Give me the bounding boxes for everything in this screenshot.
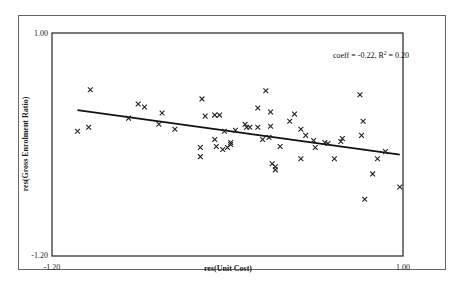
x-marker-icon bbox=[292, 112, 297, 117]
x-tick-min: -1.20 bbox=[44, 263, 61, 272]
x-marker-icon bbox=[217, 113, 222, 118]
x-marker-icon bbox=[86, 125, 91, 130]
x-marker-icon bbox=[255, 125, 260, 130]
x-marker-icon bbox=[156, 122, 161, 127]
x-marker-icon bbox=[273, 167, 278, 172]
x-marker-icon bbox=[370, 171, 375, 176]
scatter-chart: 1.00 -1.20 -1.20 1.00 res(Unit Cost) res… bbox=[0, 0, 458, 302]
y-tick-min: -1.20 bbox=[31, 251, 48, 260]
x-marker-icon bbox=[203, 114, 208, 119]
x-marker-icon bbox=[200, 96, 205, 101]
y-tick-max: 1.00 bbox=[34, 29, 48, 38]
x-marker-icon bbox=[303, 133, 308, 138]
data-points bbox=[75, 87, 402, 201]
coefficient-annotation: coeff = -0.22, R2 = 0.20 bbox=[333, 50, 409, 60]
x-marker-icon bbox=[298, 156, 303, 161]
regression-line bbox=[78, 110, 400, 155]
x-marker-icon bbox=[332, 156, 337, 161]
x-marker-icon bbox=[136, 102, 141, 107]
x-marker-icon bbox=[214, 144, 219, 149]
x-marker-icon bbox=[212, 137, 217, 142]
plot-area bbox=[52, 33, 403, 256]
x-marker-icon bbox=[313, 145, 318, 150]
x-marker-icon bbox=[278, 144, 283, 149]
x-marker-icon bbox=[247, 125, 252, 130]
x-marker-icon bbox=[362, 197, 367, 202]
x-marker-icon bbox=[375, 156, 380, 161]
x-marker-icon bbox=[359, 133, 364, 138]
x-marker-icon bbox=[198, 145, 203, 150]
x-marker-icon bbox=[361, 119, 366, 124]
x-marker-icon bbox=[88, 87, 93, 92]
x-marker-icon bbox=[255, 106, 260, 111]
x-tick-max: 1.00 bbox=[396, 263, 410, 272]
x-marker-icon bbox=[298, 127, 303, 132]
x-marker-icon bbox=[172, 127, 177, 132]
y-axis-label: res(Gross Enrolment Ratio) bbox=[21, 96, 30, 191]
x-marker-icon bbox=[397, 185, 402, 190]
x-marker-icon bbox=[260, 137, 265, 142]
x-marker-icon bbox=[198, 154, 203, 159]
x-marker-icon bbox=[268, 124, 273, 129]
x-marker-icon bbox=[142, 105, 147, 110]
x-marker-icon bbox=[287, 119, 292, 124]
x-marker-icon bbox=[75, 129, 80, 134]
x-marker-icon bbox=[160, 111, 165, 116]
x-axis-label: res(Unit Cost) bbox=[204, 264, 252, 273]
x-marker-icon bbox=[263, 88, 268, 93]
x-marker-icon bbox=[268, 110, 273, 115]
x-marker-icon bbox=[212, 113, 217, 118]
x-marker-icon bbox=[220, 147, 225, 152]
x-marker-icon bbox=[358, 92, 363, 97]
